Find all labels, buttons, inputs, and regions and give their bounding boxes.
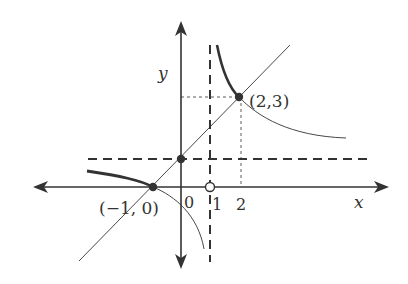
point-label-2-3: (2,3) — [249, 91, 289, 111]
point-0-1 — [177, 155, 185, 163]
origin-label: 0 — [184, 193, 194, 212]
open-point-1-0 — [206, 183, 215, 192]
hyperbola-left-highlight — [87, 171, 153, 187]
point-label-minus1-0: (−1, 0) — [99, 198, 159, 218]
y-axis-label: y — [157, 63, 168, 83]
hyperbola-right-highlight — [217, 45, 239, 97]
point-minus1-0 — [149, 183, 157, 191]
x-tick-label-1: 1 — [212, 195, 222, 214]
function-graph: y x 0 1 2 (−1, 0) (2,3) — [0, 0, 408, 284]
point-2-3 — [235, 93, 243, 101]
x-tick-label-2: 2 — [236, 195, 246, 214]
line-y-equals-x-plus-1 — [79, 45, 290, 261]
x-axis-label: x — [354, 192, 364, 212]
